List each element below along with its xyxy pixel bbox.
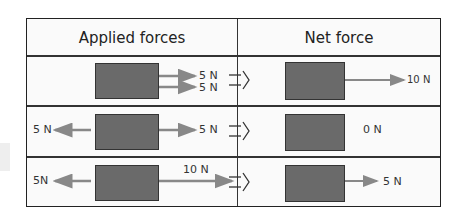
arrows-layer bbox=[27, 19, 440, 206]
net-force-label: 0 N bbox=[363, 123, 382, 136]
block-net-3 bbox=[285, 165, 345, 202]
block-applied-3 bbox=[95, 165, 159, 201]
force-label: 5 N bbox=[199, 81, 218, 94]
block-net-1 bbox=[285, 62, 345, 100]
block-applied-2 bbox=[95, 114, 159, 150]
force-label: 5 N bbox=[199, 123, 218, 136]
force-label: 10 N bbox=[183, 163, 209, 176]
block-net-2 bbox=[285, 114, 345, 151]
side-marker bbox=[0, 143, 10, 171]
net-force-label: 5 N bbox=[383, 175, 402, 188]
net-force-label: 10 N bbox=[407, 74, 430, 85]
forces-table: Applied forces Net force 5 N 5 N 10 N 5 … bbox=[26, 18, 441, 207]
block-applied-1 bbox=[95, 63, 159, 99]
force-label: 5N bbox=[33, 174, 48, 187]
force-label: 5 N bbox=[33, 123, 52, 136]
